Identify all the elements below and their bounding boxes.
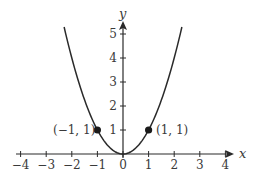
x-tick-label: −1 xyxy=(89,158,107,172)
point-marker-1-1 xyxy=(145,126,152,133)
x-tick-label: 0 xyxy=(119,158,127,172)
y-axis: 12345 y xyxy=(109,6,127,158)
x-axis: −4−3−2−101234 x xyxy=(12,146,247,172)
y-tick-label: 1 xyxy=(109,123,117,137)
y-tick-label: 2 xyxy=(109,99,117,113)
x-tick-label: 1 xyxy=(145,158,153,172)
y-tick-label: 5 xyxy=(109,27,117,41)
y-tick-label: 4 xyxy=(109,51,117,65)
y-axis-label: y xyxy=(118,6,127,21)
x-tick-label: 4 xyxy=(222,158,230,172)
x-tick-label: 2 xyxy=(170,158,178,172)
x-tick-label: −4 xyxy=(12,158,30,172)
x-tick-label: −2 xyxy=(63,158,81,172)
y-tick-label: 3 xyxy=(109,75,117,89)
point-label-right: (1, 1) xyxy=(156,123,188,137)
parabola-chart: −4−3−2−101234 x 12345 y (−1, 1) (1, 1) xyxy=(0,0,258,180)
point-label-left: (−1, 1) xyxy=(53,123,95,137)
x-tick-label: −3 xyxy=(37,158,55,172)
x-axis-label: x xyxy=(239,146,247,161)
x-tick-label: 3 xyxy=(196,158,204,172)
